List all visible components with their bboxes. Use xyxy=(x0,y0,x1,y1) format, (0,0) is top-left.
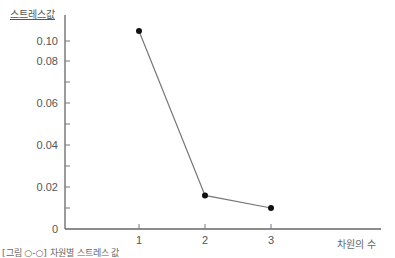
x-ticks: 123 xyxy=(136,224,274,246)
y-tick-label: 0.02 xyxy=(37,181,58,193)
y-tick-label: 0.06 xyxy=(37,97,58,109)
data-point xyxy=(268,205,274,211)
y-tick-label: 0 xyxy=(52,223,58,235)
y-tick-label: 0.10 xyxy=(37,35,58,47)
series-line xyxy=(139,31,271,208)
x-tick-label: 1 xyxy=(136,234,142,246)
x-tick-label: 3 xyxy=(268,234,274,246)
stress-line-chart: 00.020.040.060.080.10 123 xyxy=(0,0,395,258)
data-point xyxy=(136,28,142,34)
data-series xyxy=(136,28,274,211)
y-tick-label: 0.04 xyxy=(37,139,58,151)
x-tick-label: 2 xyxy=(202,234,208,246)
data-point xyxy=(202,192,208,198)
axes xyxy=(65,15,381,229)
y-tick-label: 0.08 xyxy=(37,55,58,67)
